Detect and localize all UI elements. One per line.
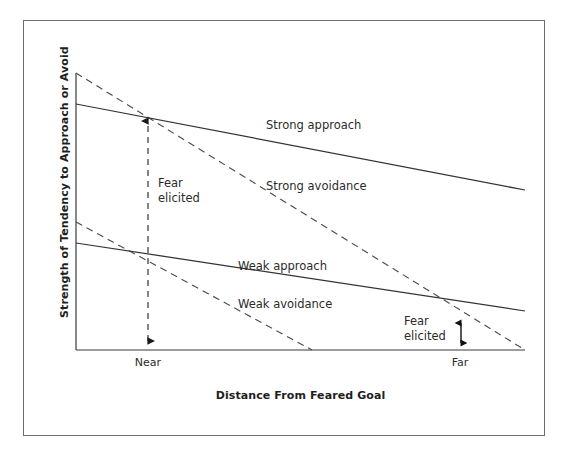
series-label-weak-approach: Weak approach: [238, 259, 327, 274]
clipped-header-text: [0, 0, 566, 10]
x-tick-label-far: Far: [435, 356, 485, 369]
annotation-fear-elicited-near-line1: Fear: [158, 176, 200, 191]
x-axis-title: Distance From Feared Goal: [76, 389, 525, 402]
annotation-fear-elicited-near-line2: elicited: [158, 191, 200, 206]
annotation-fear-elicited-near: Fear elicited: [158, 176, 200, 205]
series-label-strong-avoidance: Strong avoidance: [266, 179, 367, 194]
annotation-fear-elicited-far: Fear elicited: [404, 314, 446, 343]
series-label-weak-avoidance: Weak avoidance: [238, 297, 332, 312]
y-axis-title: Strength of Tendency to Approach or Avoi…: [58, 46, 71, 318]
x-tick-label-near: Near: [123, 356, 173, 369]
annotation-fear-elicited-far-line1: Fear: [404, 314, 446, 329]
figure-frame: [23, 20, 545, 436]
series-label-strong-approach: Strong approach: [266, 118, 361, 133]
annotation-fear-elicited-far-line2: elicited: [404, 329, 446, 344]
